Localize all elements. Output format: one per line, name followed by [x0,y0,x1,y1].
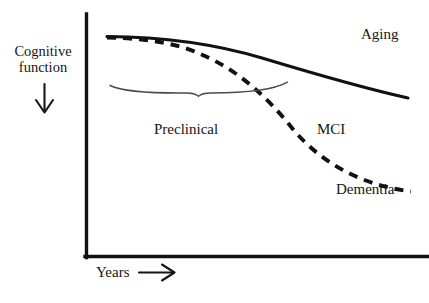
dementia-curve-label: Dementia [336,181,394,197]
cognitive-decline-figure: Cognitive function Years Aging MCI Demen… [0,0,429,303]
x-axis-label: Years [96,264,129,280]
right-arrow-icon [139,265,175,281]
mci-dementia-curve [107,38,411,192]
preclinical-brace-label: Preclinical [154,121,218,137]
mci-curve-label: MCI [317,121,345,137]
down-arrow-icon [36,84,53,113]
y-axis-label-line2: function [4,60,82,76]
y-axis-label-line1: Cognitive [4,44,82,60]
y-axis-label: Cognitive function [4,44,82,75]
aging-curve-label: Aging [361,26,399,42]
